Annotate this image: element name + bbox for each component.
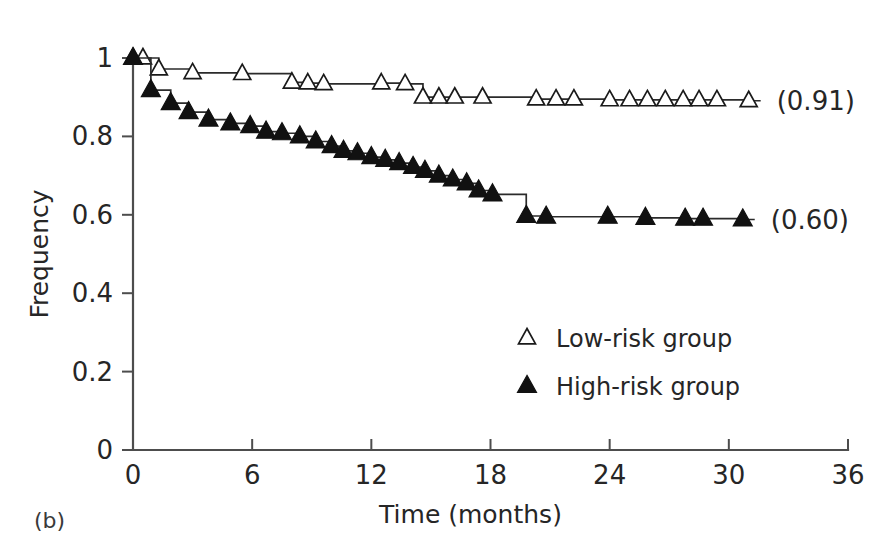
censor-marker <box>257 121 276 138</box>
censor-marker <box>548 90 565 105</box>
y-axis-tick-label: 0.2 <box>72 357 113 387</box>
series-end-labels: (0.91)(0.60) <box>771 86 855 235</box>
censor-marker <box>306 131 325 148</box>
censor-marker <box>299 74 316 89</box>
series-low-risk <box>125 49 761 107</box>
censor-marker <box>708 90 725 105</box>
censor-marker <box>636 207 655 224</box>
censor-marker <box>390 152 409 169</box>
x-axis-tick-label: 30 <box>712 460 745 490</box>
censor-marker <box>537 206 556 223</box>
censor-marker <box>446 88 463 103</box>
end-label-low-risk: (0.91) <box>777 86 855 116</box>
censor-marker <box>691 90 708 105</box>
censor-marker <box>657 90 674 105</box>
x-axis-tick-label: 18 <box>474 460 507 490</box>
censor-marker <box>315 74 332 89</box>
y-axis-tick-label: 1 <box>96 43 113 73</box>
censor-marker <box>621 90 638 105</box>
censor-marker <box>234 64 251 79</box>
y-axis-tick-label: 0 <box>96 435 113 465</box>
y-axis-title: Frequency <box>25 189 54 318</box>
x-axis-tick-label: 36 <box>831 460 864 490</box>
step-line <box>133 58 755 220</box>
legend-marker-low-risk <box>519 329 536 344</box>
censor-marker <box>150 59 167 74</box>
censor-marker <box>601 90 618 105</box>
legend-label-high-risk: High-risk group <box>556 373 740 401</box>
censor-marker <box>221 113 240 130</box>
axes <box>133 52 848 450</box>
y-axis-tick-label: 0.8 <box>72 121 113 151</box>
censor-marker <box>740 91 757 106</box>
legend-marker-high-risk <box>518 375 537 392</box>
y-axis-tick-label: 0.6 <box>72 200 113 230</box>
censor-marker <box>639 90 656 105</box>
censor-marker <box>598 206 617 223</box>
x-axis-tick-label: 6 <box>244 460 261 490</box>
censor-marker <box>694 208 713 225</box>
censor-marker <box>397 74 414 89</box>
x-axis-tick-label: 24 <box>593 460 626 490</box>
data-series-group <box>124 47 761 226</box>
censor-marker <box>675 90 692 105</box>
censor-marker <box>141 80 160 97</box>
censor-marker <box>373 74 390 89</box>
x-axis-title: Time (months) <box>378 500 562 529</box>
censor-marker <box>517 205 536 222</box>
censor-marker <box>184 63 201 78</box>
x-axis-tick-label: 12 <box>355 460 388 490</box>
y-axis-tick-labels: 00.20.40.60.81 <box>72 43 113 465</box>
censor-marker <box>290 126 309 143</box>
end-label-high-risk: (0.60) <box>771 205 849 235</box>
legend-label-low-risk: Low-risk group <box>556 325 732 353</box>
x-axis-tick-labels: 061218243036 <box>125 460 865 490</box>
censor-marker <box>565 90 582 105</box>
censor-marker <box>179 101 198 118</box>
series-high-risk <box>124 47 755 226</box>
y-axis-tick-label: 0.4 <box>72 278 113 308</box>
censor-marker <box>283 73 300 88</box>
censor-marker <box>430 88 447 103</box>
survival-curve-chart: 00.20.40.60.81 061218243036 (0.91)(0.60)… <box>0 0 893 554</box>
censor-marker <box>676 208 695 225</box>
censor-marker <box>733 209 752 226</box>
chart-legend: Low-risk groupHigh-risk group <box>518 325 741 401</box>
panel-label: (b) <box>34 508 65 533</box>
censor-marker <box>161 92 180 109</box>
x-axis-tick-label: 0 <box>125 460 142 490</box>
censor-marker <box>474 88 491 103</box>
figure-panel-b: 00.20.40.60.81 061218243036 (0.91)(0.60)… <box>0 0 893 554</box>
censor-marker <box>414 88 431 103</box>
